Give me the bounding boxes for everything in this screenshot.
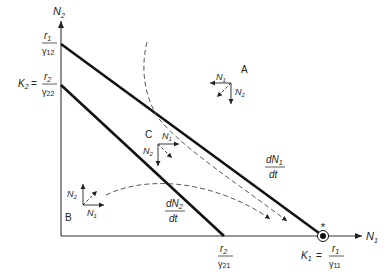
svg-text:=: =: [316, 250, 322, 261]
svg-text:γ11: γ11: [329, 259, 341, 269]
dn1-dt-label: dN1 dt: [265, 154, 285, 180]
svg-text:r1: r1: [332, 243, 339, 255]
svg-text:γ12: γ12: [42, 46, 54, 56]
x-intercept-r2-gamma21: r2 γ21: [218, 243, 233, 269]
svg-text:N2: N2: [235, 87, 246, 98]
svg-text:γ22: γ22: [42, 87, 54, 97]
svg-text:dN2: dN2: [166, 198, 183, 210]
region-c: C N1 N2: [143, 129, 179, 166]
svg-text:r1: r1: [44, 30, 51, 42]
svg-text:N2: N2: [67, 189, 78, 200]
svg-text:=: =: [31, 78, 37, 89]
x-intercept-k1: K1 = r1 γ11: [301, 243, 344, 269]
svg-text:K1: K1: [301, 250, 312, 262]
equilibrium-star: *: [321, 221, 326, 233]
svg-text:r2: r2: [44, 71, 51, 83]
region-a: A N1 N2: [210, 64, 248, 104]
region-b: B N2 N1: [65, 184, 104, 223]
svg-text:r2: r2: [220, 243, 227, 255]
svg-text:N1: N1: [162, 131, 172, 142]
region-c-label: C: [145, 129, 152, 140]
phase-plane-diagram: * N2 N1 r1 γ12 K2 = r2 γ22 r2 γ21 K1 = r…: [0, 0, 391, 276]
svg-text:dt: dt: [169, 213, 179, 224]
arrow-resultant: [158, 144, 172, 158]
svg-text:γ21: γ21: [218, 259, 230, 269]
equilibrium-point: *: [318, 221, 329, 242]
region-a-label: A: [241, 64, 248, 75]
dn2-dt-label: dN2 dt: [165, 198, 185, 224]
y-intercept-r1-gamma12: r1 γ12: [42, 30, 57, 56]
svg-text:N1: N1: [216, 72, 226, 83]
n2-isocline: [61, 85, 224, 236]
svg-text:N1: N1: [87, 208, 97, 219]
arrow-resultant: [83, 191, 97, 205]
svg-text:N2: N2: [143, 146, 154, 157]
n1-axis-label: N1: [366, 230, 378, 244]
svg-text:dN1: dN1: [266, 154, 283, 166]
svg-text:dt: dt: [269, 169, 279, 180]
n2-axis-label: N2: [53, 5, 65, 19]
region-b-label: B: [65, 212, 72, 223]
svg-text:K2: K2: [18, 78, 29, 90]
arrow-resultant: [217, 83, 231, 97]
y-intercept-k2: K2 = r2 γ22: [18, 71, 57, 97]
